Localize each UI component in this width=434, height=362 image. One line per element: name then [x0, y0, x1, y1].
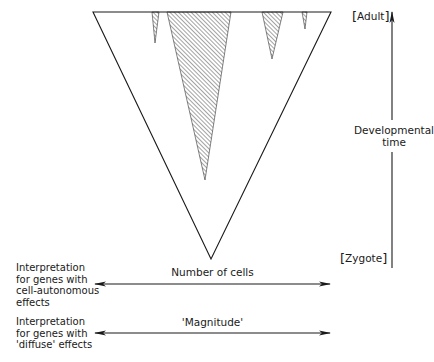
- caption-line: for genes with: [16, 328, 92, 340]
- diffuse-effects-caption: Interpretation for genes with 'diffuse' …: [16, 316, 92, 351]
- caption-line: for genes with: [16, 274, 99, 286]
- caption-line: cell-autonomous: [16, 285, 99, 297]
- zygote-text: Zygote: [345, 252, 382, 264]
- bracket-close: ]: [384, 9, 389, 24]
- shaded-wedges: [152, 12, 307, 180]
- wedge-small-left: [152, 12, 159, 43]
- bracket-close: ]: [382, 251, 387, 266]
- time-text: time: [354, 136, 434, 148]
- caption-line: effects: [16, 297, 99, 309]
- caption-line: Interpretation: [16, 262, 99, 274]
- adult-label: [Adult]: [352, 10, 390, 23]
- caption-line: 'diffuse' effects: [16, 339, 92, 351]
- wedge-medium-right: [262, 12, 283, 59]
- caption-line: Interpretation: [16, 316, 92, 328]
- developmental-time-label: Developmental time: [354, 124, 434, 148]
- magnitude-label: 'Magnitude': [95, 316, 330, 328]
- cell-autonomous-caption: Interpretation for genes with cell-auton…: [16, 262, 99, 308]
- zygote-label: [Zygote]: [340, 252, 387, 265]
- wedge-tiny-right: [302, 12, 307, 29]
- wedge-large: [167, 12, 231, 180]
- number-of-cells-label: Number of cells: [95, 266, 330, 278]
- adult-text: Adult: [357, 10, 384, 22]
- developmental-text: Developmental: [354, 124, 434, 136]
